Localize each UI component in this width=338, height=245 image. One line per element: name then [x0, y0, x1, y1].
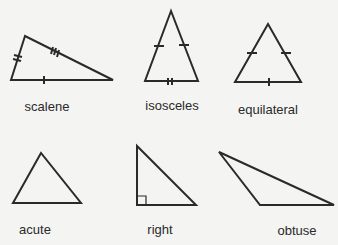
scalene-triangle — [11, 36, 113, 84]
isosceles-label: isosceles — [145, 98, 198, 113]
obtuse-triangle — [219, 152, 334, 205]
right-triangle — [137, 146, 196, 205]
acute-triangle — [13, 153, 81, 203]
equilateral-label: equilateral — [238, 102, 298, 117]
acute-label: acute — [19, 222, 51, 237]
equilateral-triangle — [235, 24, 301, 86]
scalene-label: scalene — [25, 99, 70, 114]
obtuse-label: obtuse — [277, 223, 316, 238]
right-label: right — [147, 222, 172, 237]
triangle-diagram — [0, 0, 338, 245]
isosceles-triangle — [145, 11, 198, 85]
